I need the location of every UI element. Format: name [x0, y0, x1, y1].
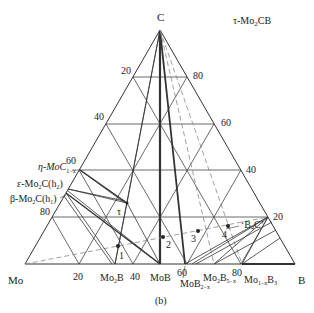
svg-text:60: 60 — [177, 267, 187, 278]
sample-points — [116, 202, 230, 249]
phase-label-b4c: ‘B4C’ — [241, 219, 264, 231]
diagram-title: τ-Mo2CB — [233, 15, 271, 28]
svg-text:40: 40 — [130, 271, 140, 282]
phase-label-mob: MoB — [150, 272, 171, 283]
phase-label-tau: τ — [117, 206, 121, 217]
phase-label-epsilon-mo2c: ε-Mo2C(h2) — [17, 178, 63, 190]
right-axis-ticks: 80 60 40 20 — [193, 70, 283, 222]
figure-caption: (b) — [155, 295, 167, 307]
phase-label-mo2b: Mo2B — [100, 272, 124, 284]
phase-label-beta-mo2c: β-Mo2C(h1) — [10, 193, 57, 205]
tie-lines-b4c — [185, 217, 295, 264]
svg-text:2: 2 — [166, 239, 171, 250]
svg-text:20: 20 — [273, 211, 283, 222]
svg-text:20: 20 — [121, 65, 131, 76]
svg-text:80: 80 — [232, 267, 242, 278]
phase-label-mo1b3: Mo1−xB3 — [244, 274, 277, 286]
svg-text:40: 40 — [246, 164, 256, 175]
svg-text:80: 80 — [40, 206, 50, 217]
svg-text:60: 60 — [221, 117, 231, 128]
svg-text:1: 1 — [119, 250, 124, 261]
ternary-phase-diagram: C Mo B τ-Mo2CB 20 40 60 80 80 60 40 20 2… — [0, 0, 314, 313]
vertex-label-mo: Mo — [8, 274, 24, 286]
svg-text:4: 4 — [222, 229, 227, 240]
svg-text:40: 40 — [94, 111, 104, 122]
svg-text:80: 80 — [193, 70, 203, 81]
svg-text:60: 60 — [66, 155, 76, 166]
vertex-label-b: B — [298, 274, 305, 286]
vertex-label-c: C — [157, 11, 164, 23]
svg-text:3: 3 — [191, 233, 196, 244]
svg-text:20: 20 — [73, 271, 83, 282]
